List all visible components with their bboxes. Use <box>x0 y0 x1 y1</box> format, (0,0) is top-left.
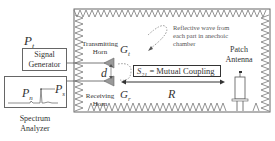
patch-antenna-label: Patch Antenna <box>222 45 256 65</box>
s21-symbol: S21 <box>137 66 147 76</box>
patch-antenna-stand <box>232 99 248 101</box>
spectrum-analyzer-label: Spectrum Analyzer <box>18 114 52 134</box>
ps-label: Ps <box>55 83 65 98</box>
patch-antenna-body <box>235 77 245 99</box>
patch-antenna-feed <box>239 71 242 73</box>
absorber-bottom-right <box>253 103 259 111</box>
reflection-loop-left <box>118 64 131 81</box>
pn-label: Pn <box>22 87 33 102</box>
gr-label: Gr <box>120 89 131 103</box>
absorber-top <box>74 10 266 17</box>
reflection-loop-top <box>148 26 167 44</box>
r-label: R <box>168 88 175 100</box>
s21-box: S21 = Mutual Coupling <box>133 65 221 77</box>
signal-generator-label: Signal Generator <box>23 50 66 70</box>
signal-generator-box: Signal Generator <box>22 48 67 71</box>
receiving-horn-label: Receiving Horn <box>83 92 117 108</box>
s21-text: = Mutual Coupling <box>147 66 214 76</box>
transmitting-horn-label: Transmitting Horn <box>80 40 120 56</box>
gt-label: Gt <box>120 44 130 58</box>
absorber-right <box>261 15 269 111</box>
d-label: d <box>101 67 107 79</box>
